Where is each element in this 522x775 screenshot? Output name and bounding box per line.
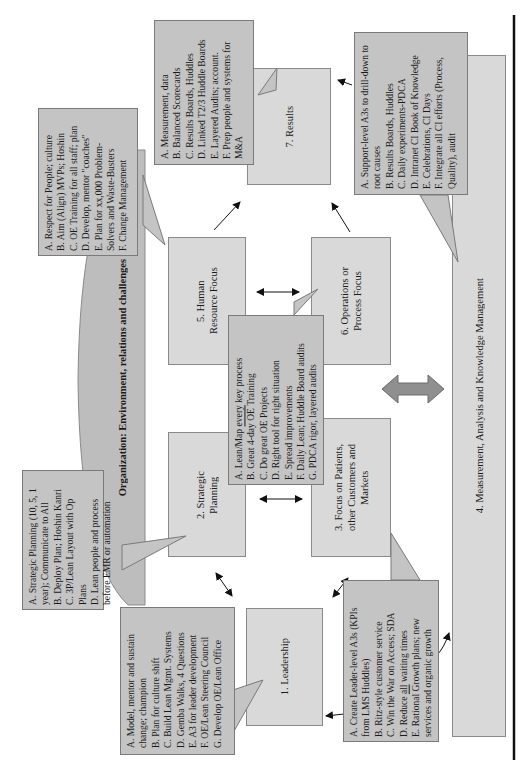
callout-strategic-planning: A. Strategic Planning (10, 5, 1 year); C… (22, 470, 104, 610)
callout-leadership-item: F. OE/Lean Steering Council (199, 614, 211, 748)
callout-operations: A. Lean/Map every key process B. Great 4… (228, 315, 324, 485)
callout-measurement-item: C. Daily experiments-PDCA (396, 39, 408, 189)
callout-hr-item: B. Aim (Align) MVPs; Hoshin (55, 115, 67, 251)
callout-leadership-item: A. Model, mentor and sustain change; cha… (125, 614, 150, 748)
callout-measurement-item: F. Integrate all CI efforts (Process, Qu… (433, 39, 458, 189)
callout-focus-item: C. Win the War on Access; SDA (385, 587, 397, 737)
callout-results-item: C. Results Boards, Huddles (184, 28, 196, 159)
callout-results-item: F. Prep people and systems for M&A (221, 28, 246, 159)
callout-focus-item: D. Reduce all waiting times (398, 587, 410, 737)
callout-operations-item: B. Great 4-day OE Training (245, 322, 257, 480)
callout-human-resource: A. Respect for People; culture B. Aim (A… (38, 108, 138, 256)
callout-strategic-item: A. Strategic Planning (10, 5, 1 year); C… (27, 477, 52, 605)
callout-measurement-item: D. Intranet CI Book of Knowledge (409, 39, 421, 189)
callout-measurement-item: E. Celebrations, CI Days (421, 39, 433, 189)
callout-operations-item: A. Lean/Map every key process (233, 322, 245, 480)
callout-results-item: D. Linked T2/3 Huddle Boards (196, 28, 208, 159)
callout-hr-item: D. Develop, mentor "coaches" (80, 115, 92, 251)
callout-measurement-item: A. Support-level A3s to drill-down to ro… (359, 39, 384, 189)
callout-focus-item: E. Rational Growth plans; new services a… (410, 587, 435, 737)
callout-leadership-item: C. Build Lean Mgmt. Systems (162, 614, 174, 748)
callout-leadership-item: D. Gemba Walks, 4 Questions (175, 614, 187, 748)
callout-strategic-item: B. Deploy Plan; Hoshin Kanri (52, 477, 64, 605)
callout-results: A. Measurement, data B. Balanced Scoreca… (154, 20, 254, 165)
callout-results-item: E. Layered Audits; account. (209, 28, 221, 159)
callout-strategic-item: C. 3P/Lean Layout with Op Plans (64, 477, 89, 605)
callout-leadership: A. Model, mentor and sustain change; cha… (120, 607, 235, 755)
callout-measurement: A. Support-level A3s to drill-down to ro… (354, 32, 468, 195)
callout-operations-item: E. Spread improvements (283, 322, 295, 480)
callout-leadership-item: B. Plan for culture shift (150, 614, 162, 748)
callout-operations-item: D. Right tool for right situation (270, 322, 282, 480)
callout-hr-item: A. Respect for People; culture (43, 115, 55, 251)
callout-operations-item: G. PDCA rigor, layered audits (307, 322, 319, 480)
callout-hr-item: F. Change Management (117, 115, 129, 251)
callout-focus-customers: A. Create Leader-level A3s (KPIs from LM… (343, 580, 439, 742)
callout-operations-item: F. Daily Lean; Huddle Board audits (295, 322, 307, 480)
callout-results-item: A. Measurement, data (159, 28, 171, 159)
callout-leadership-item: G. Develop OE/Lean Office (212, 614, 224, 748)
callout-focus-item: B. Ritz-style customer service (373, 587, 385, 737)
callout-results-item: B. Balanced Scorecards (171, 28, 183, 159)
callout-hr-item: C. OE Training for all staff; plan (68, 115, 80, 251)
callout-leadership-item: E. A3 for leader development (187, 614, 199, 748)
callout-strategic-item: D. Lean people and process before EMR or… (89, 477, 114, 605)
callout-focus-item: A. Create Leader-level A3s (KPIs from LM… (348, 587, 373, 737)
callout-operations-item: C. Do great OE Projects (258, 322, 270, 480)
callout-measurement-item: B. Results Boards, Huddles (384, 39, 396, 189)
callout-hr-item: E. Plan for xx,000 Problem-Solvers and W… (93, 115, 118, 251)
